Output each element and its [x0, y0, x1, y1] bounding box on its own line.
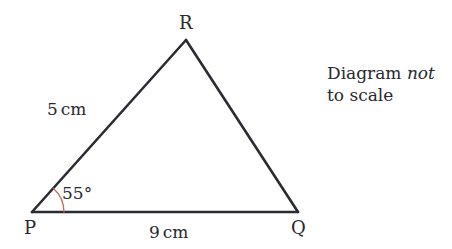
side-pr-unit: cm: [61, 99, 87, 119]
side-pq-value: 9: [149, 222, 160, 242]
diagram-canvas: R P Q 5cm 9cm 55° Diagram not to scale: [0, 0, 452, 249]
side-rq-line: [186, 40, 298, 212]
side-pq-unit: cm: [163, 222, 189, 242]
angle-measure-label-p: 55°: [62, 185, 92, 202]
vertex-label-q: Q: [291, 219, 306, 237]
note-line-2: to scale: [327, 84, 435, 106]
note-line-1: Diagram not: [327, 62, 435, 84]
side-length-label-pq: 9cm: [149, 224, 188, 241]
triangle-geometry: [0, 0, 452, 249]
side-pr-line: [32, 40, 186, 212]
vertex-label-r: R: [179, 14, 193, 32]
side-length-label-pr: 5cm: [47, 101, 86, 118]
note-prefix: Diagram: [327, 63, 407, 83]
vertex-label-p: P: [24, 219, 36, 237]
side-pr-value: 5: [47, 99, 58, 119]
note-emphasis: not: [407, 63, 435, 83]
not-to-scale-note: Diagram not to scale: [327, 62, 435, 106]
